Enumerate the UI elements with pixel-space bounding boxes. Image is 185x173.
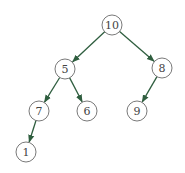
tree-diagram: 10587691 [0,0,185,173]
node-label: 1 [23,146,30,159]
edge-10-to-8 [120,32,154,62]
tree-node-5: 5 [55,59,75,79]
tree-node-8: 8 [152,58,172,78]
node-label: 6 [84,105,91,118]
edge-5-to-6 [70,78,82,102]
node-label: 9 [134,105,141,118]
tree-node-9: 9 [127,101,147,121]
tree-node-1: 1 [16,142,36,162]
node-label: 5 [62,63,69,76]
node-label: 10 [105,19,119,32]
tree-node-10: 10 [102,15,122,35]
tree-node-6: 6 [77,101,97,121]
edge-10-to-5 [73,32,105,62]
edge-5-to-7 [45,78,60,103]
edge-8-to-9 [142,77,157,102]
tree-node-7: 7 [29,101,49,121]
edge-7-to-1 [29,121,36,142]
node-label: 8 [159,62,166,75]
node-label: 7 [36,105,43,118]
edges-layer [29,32,157,142]
nodes-layer: 10587691 [16,15,172,162]
